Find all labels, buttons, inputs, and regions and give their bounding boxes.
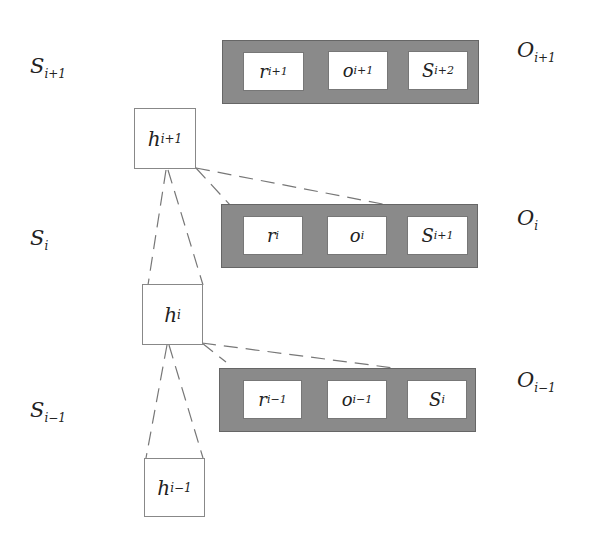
state-label-i-plus-1: Si+1 [30,56,66,80]
output-label-i: Oi [517,208,538,232]
cell-r: ri−1 [243,380,302,419]
cell-r: ri+1 [243,52,304,91]
output-bar-i-minus-1: ri−1 oi−1 Si [219,368,476,432]
cell-s: Si [407,380,467,419]
state-label-i-minus-1: Si−1 [30,400,66,424]
hidden-node-i-minus-1: hi−1 [144,458,205,517]
cell-o: oi [327,216,387,255]
output-bar-i-plus-1: ri+1 oi+1 Si+2 [222,40,479,104]
hidden-node-i: hi [142,284,203,345]
state-label-i: Si [30,228,48,252]
diagram-canvas: Si+1 Si Si−1 Oi+1 Oi Oi−1 hi+1 hi hi−1 r… [0,0,599,545]
hidden-node-i-plus-1: hi+1 [134,108,196,169]
cell-o: oi+1 [328,51,388,90]
cell-s: Si+1 [407,216,468,255]
cell-s: Si+2 [408,51,468,90]
output-bar-i: ri oi Si+1 [221,204,478,268]
cell-r: ri [243,216,303,255]
output-label-i-plus-1: Oi+1 [517,40,556,64]
cell-o: oi−1 [327,380,387,419]
output-label-i-minus-1: Oi−1 [517,370,556,394]
